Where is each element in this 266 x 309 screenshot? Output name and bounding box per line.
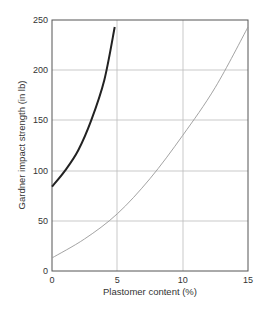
y-tick-labels: 050100150200250 bbox=[33, 15, 48, 276]
y-tick-250: 250 bbox=[33, 15, 48, 25]
y-tick-0: 0 bbox=[43, 266, 48, 276]
x-tick-15: 15 bbox=[243, 275, 253, 285]
chart: 051015 050100150200250 Plastomer content… bbox=[0, 0, 266, 309]
y-axis-label: Gardner impact strength (in lb) bbox=[16, 81, 27, 210]
x-tick-0: 0 bbox=[49, 275, 54, 285]
y-tick-150: 150 bbox=[33, 115, 48, 125]
x-tick-5: 5 bbox=[115, 275, 120, 285]
x-tick-10: 10 bbox=[178, 275, 188, 285]
x-axis-label: Plastomer content (%) bbox=[103, 286, 197, 297]
series-dark-curve bbox=[52, 27, 115, 187]
y-tick-50: 50 bbox=[38, 216, 48, 226]
y-tick-100: 100 bbox=[33, 166, 48, 176]
y-tick-200: 200 bbox=[33, 65, 48, 75]
x-tick-labels: 051015 bbox=[49, 275, 253, 285]
